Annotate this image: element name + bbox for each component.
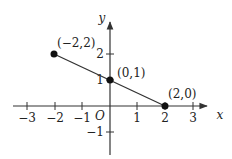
point-label: (2,0) — [168, 87, 196, 101]
y-axis-label: y — [98, 11, 106, 25]
y-tick-label: −1 — [86, 125, 104, 139]
x-tick-label: −3 — [18, 111, 36, 125]
x-axis-label: x — [217, 108, 224, 122]
coordinate-plane: −3 −2 −1 1 2 3 2 1 −1 O x y (−2,2) (0,1)… — [0, 0, 232, 159]
origin-label: O — [95, 109, 105, 123]
x-tick-label: 3 — [189, 111, 197, 125]
x-tick-label: 2 — [161, 111, 169, 125]
x-tick-label: 1 — [133, 111, 141, 125]
point-neg2-2 — [51, 51, 58, 58]
point-0-1 — [107, 77, 114, 84]
x-tick-label: −1 — [73, 111, 91, 125]
y-tick-label: 2 — [96, 47, 104, 61]
point-label: (−2,2) — [57, 36, 96, 50]
point-label: (0,1) — [117, 66, 145, 80]
x-tick-label: −2 — [46, 111, 64, 125]
point-2-0 — [162, 103, 169, 110]
